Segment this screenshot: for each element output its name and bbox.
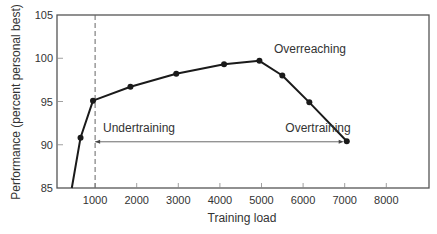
x-tick-label: 2000 bbox=[124, 194, 148, 206]
arrow-head-left bbox=[95, 140, 100, 144]
annotation-overreaching: Overreaching bbox=[274, 42, 346, 56]
data-point bbox=[279, 73, 285, 79]
training-arrow bbox=[95, 140, 344, 144]
data-point bbox=[173, 71, 179, 77]
axis-ticks: 1000200030004000500060007000800085909510… bbox=[35, 9, 399, 206]
data-point bbox=[127, 84, 133, 90]
data-point bbox=[90, 98, 96, 104]
y-axis-label: Performance (percent personal best) bbox=[9, 4, 23, 199]
plot-border bbox=[57, 15, 429, 188]
performance-chart: 1000200030004000500060007000800085909510… bbox=[0, 0, 437, 234]
y-tick-label: 85 bbox=[41, 182, 53, 194]
annotation-undertraining: Undertraining bbox=[103, 121, 175, 135]
data-point bbox=[256, 58, 262, 64]
x-tick-label: 4000 bbox=[208, 194, 232, 206]
data-point bbox=[344, 138, 350, 144]
x-tick-label: 3000 bbox=[166, 194, 190, 206]
x-tick-label: 6000 bbox=[291, 194, 315, 206]
data-point bbox=[306, 99, 312, 105]
x-tick-label: 1000 bbox=[83, 194, 107, 206]
x-axis-label: Training load bbox=[208, 211, 277, 225]
data-point bbox=[221, 61, 227, 67]
x-tick-label: 7000 bbox=[332, 194, 356, 206]
arrow-head-right bbox=[339, 140, 344, 144]
y-tick-label: 90 bbox=[41, 139, 53, 151]
data-point bbox=[78, 135, 84, 141]
y-tick-label: 100 bbox=[35, 52, 53, 64]
annotation-overtraining: Overtraining bbox=[285, 121, 350, 135]
y-tick-label: 95 bbox=[41, 96, 53, 108]
plot-frame bbox=[57, 15, 429, 188]
y-tick-label: 105 bbox=[35, 9, 53, 21]
x-tick-label: 5000 bbox=[249, 194, 273, 206]
x-tick-label: 8000 bbox=[374, 194, 398, 206]
annotations: UndertrainingOvertrainingOverreaching bbox=[103, 42, 351, 135]
